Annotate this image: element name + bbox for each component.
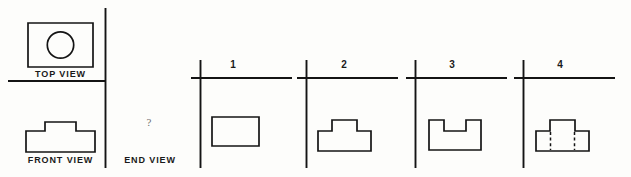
option-3-shape[interactable] — [429, 120, 481, 150]
figure-canvas: TOP VIEWFRONT VIEW?END VIEW1234 — [0, 0, 631, 177]
option-2-number: 2 — [341, 59, 347, 70]
projection-question-figure: TOP VIEWFRONT VIEW?END VIEW1234 — [0, 0, 631, 177]
front-view-label: FRONT VIEW — [28, 155, 94, 165]
option-3-number: 3 — [449, 59, 455, 70]
option-4-shape[interactable] — [536, 120, 589, 151]
top-view-circle — [47, 32, 73, 58]
top-view-outline — [28, 23, 93, 67]
option-4-number: 4 — [557, 59, 563, 70]
option-1-shape[interactable] — [212, 117, 259, 146]
end-view-question-mark: ? — [147, 116, 152, 128]
top-view-label: TOP VIEW — [35, 69, 86, 79]
option-2-shape[interactable] — [318, 120, 371, 151]
option-1-number: 1 — [230, 59, 236, 70]
front-view-outline — [26, 122, 95, 152]
end-view-label: END VIEW — [124, 155, 176, 165]
